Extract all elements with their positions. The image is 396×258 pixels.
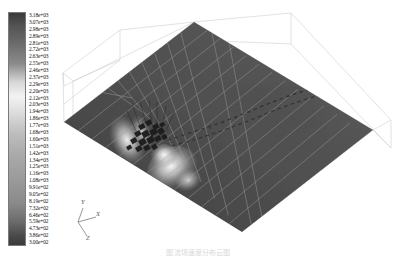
colorbar-tick-33: 3.00e+02 <box>29 239 48 246</box>
colorbar: 3.18e+033.07e+032.98e+032.89e+032.81e+03… <box>8 12 68 246</box>
colorbar-gradient <box>8 12 26 246</box>
axis-triad: Y X Z <box>66 196 112 244</box>
axis-lines <box>78 208 96 236</box>
axis-label-z: Z <box>86 234 90 241</box>
axis-label-x: X <box>96 210 100 217</box>
axis-label-y: Y <box>81 198 85 205</box>
figure-caption: 图 流场速度分布云图 <box>0 247 396 257</box>
figure-container: 3.18e+033.07e+032.98e+032.89e+032.81e+03… <box>0 0 396 258</box>
